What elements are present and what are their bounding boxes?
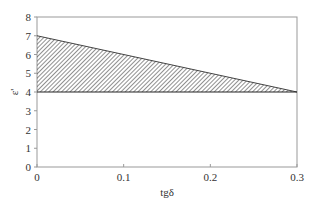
x-tick-label: 0 bbox=[34, 171, 40, 183]
x-tick-label: 0.3 bbox=[290, 171, 304, 183]
y-tick-label: 8 bbox=[26, 11, 32, 23]
y-tick-label: 4 bbox=[26, 86, 32, 98]
plot-area bbox=[37, 17, 297, 167]
y-tick-label: 2 bbox=[26, 124, 32, 136]
y-tick-label: 3 bbox=[26, 105, 32, 117]
x-tick-label: 0.2 bbox=[203, 171, 217, 183]
y-axis: 012345678 bbox=[26, 11, 38, 173]
y-tick-label: 0 bbox=[26, 161, 32, 173]
y-tick-label: 5 bbox=[26, 67, 32, 79]
y-tick-label: 7 bbox=[26, 30, 32, 42]
x-axis-label: tgδ bbox=[160, 186, 174, 198]
y-axis-label: ε' bbox=[8, 89, 20, 96]
y-tick-label: 6 bbox=[26, 49, 32, 61]
y-tick-label: 1 bbox=[26, 142, 32, 154]
x-tick-label: 0.1 bbox=[117, 171, 131, 183]
chart: 012345678 00.10.20.3 tgδ ε' bbox=[0, 0, 315, 207]
